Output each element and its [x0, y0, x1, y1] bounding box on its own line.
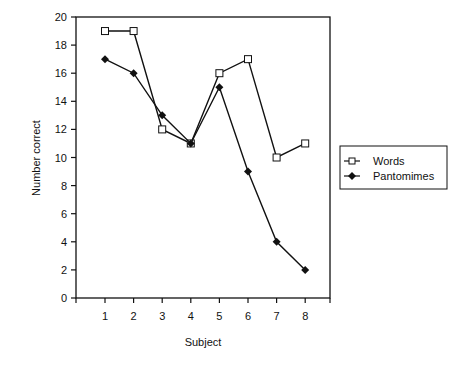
y-tick-label: 10 [55, 152, 67, 164]
y-tick-label: 2 [61, 264, 67, 276]
y-tick-label: 20 [55, 11, 67, 23]
axes: 0246810121416182012345678 [55, 11, 330, 322]
legend-label-words: Words [373, 155, 405, 167]
y-tick-label: 12 [55, 123, 67, 135]
y-tick-label: 0 [61, 292, 67, 304]
x-tick-label: 2 [131, 310, 137, 322]
plot-frame [76, 17, 330, 298]
data-point [130, 28, 137, 35]
series-words [102, 28, 309, 161]
x-tick-label: 7 [274, 310, 280, 322]
y-tick-label: 18 [55, 39, 67, 51]
legend-label-pantomimes: Pantomimes [373, 170, 435, 182]
data-point [273, 154, 280, 161]
open-square-icon [349, 158, 355, 164]
x-tick-label: 8 [302, 310, 308, 322]
y-tick-label: 4 [61, 236, 67, 248]
y-tick-label: 8 [61, 180, 67, 192]
x-tick-label: 5 [216, 310, 222, 322]
data-point [244, 168, 252, 176]
x-tick-label: 4 [188, 310, 194, 322]
data-point [101, 55, 109, 63]
data-point [102, 28, 109, 35]
y-tick-label: 6 [61, 208, 67, 220]
data-point [159, 126, 166, 133]
data-point [215, 83, 223, 91]
y-tick-label: 14 [55, 95, 67, 107]
x-tick-label: 1 [102, 310, 108, 322]
data-point [216, 70, 223, 77]
x-tick-label: 6 [245, 310, 251, 322]
data-point [130, 69, 138, 77]
x-tick-label: 3 [159, 310, 165, 322]
legend: Words Pantomimes [340, 146, 447, 189]
data-lines [101, 28, 309, 274]
line-chart: 0246810121416182012345678 Number correct… [0, 0, 461, 365]
x-axis-label: Subject [185, 336, 222, 348]
data-point [302, 140, 309, 147]
data-point [245, 56, 252, 63]
series-pantomimes [101, 55, 309, 274]
y-axis-label: Number correct [30, 120, 42, 196]
y-tick-label: 16 [55, 67, 67, 79]
